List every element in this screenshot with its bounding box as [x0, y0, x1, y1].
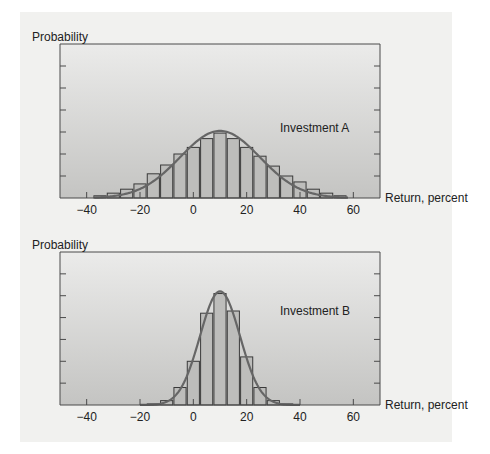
x-tick-label: 40 [293, 410, 307, 424]
bar [227, 139, 239, 198]
x-tick-label: 20 [240, 203, 254, 217]
x-axis-label: Return, percent [385, 398, 468, 412]
series-annotation: Investment B [280, 304, 350, 318]
series-annotation: Investment A [280, 121, 349, 135]
x-tick-label: 60 [347, 203, 361, 217]
y-axis-label: Probability [32, 30, 88, 44]
x-tick-label: 40 [293, 203, 307, 217]
y-axis-label: Probability [32, 238, 88, 252]
bar [241, 147, 253, 198]
x-tick-label: −40 [76, 203, 97, 217]
bar [214, 133, 226, 198]
bar [187, 147, 199, 198]
bar [241, 357, 253, 405]
investment-distribution-figure: −40−200204060 Probability Return, percen… [0, 0, 490, 454]
x-tick-label: −40 [76, 410, 97, 424]
x-tick-label: 20 [240, 410, 254, 424]
x-tick-label: 60 [347, 410, 361, 424]
x-tick-label: 0 [190, 410, 197, 424]
x-tick-label: 0 [190, 203, 197, 217]
bar [201, 139, 213, 198]
x-tick-label: −20 [130, 203, 151, 217]
x-axis-label: Return, percent [385, 191, 468, 205]
x-tick-label: −20 [130, 410, 151, 424]
bar [214, 294, 226, 405]
